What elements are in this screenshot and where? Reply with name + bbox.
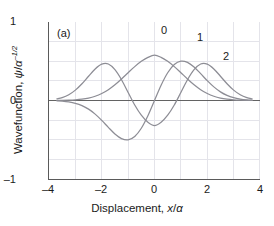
y-axis-title-unit: α <box>12 60 24 67</box>
x-tick-4: 4 <box>248 184 272 195</box>
x-axis-title-prefix: Displacement, <box>91 202 167 214</box>
curve-label-2: 2 <box>223 51 229 62</box>
curve-label-1: 1 <box>197 32 203 43</box>
x-tick-0: 0 <box>142 184 166 195</box>
plot-canvas <box>49 22 260 179</box>
y-axis-title: Wavefunction, ψ/α–1/2 <box>10 15 24 185</box>
y-axis-title-prefix: Wavefunction, <box>12 78 24 154</box>
harmonic-oscillator-wavefunction-figure: (a) 0 1 2 1 0 –1 –4 –2 0 2 4 Displacemen… <box>0 0 274 226</box>
y-axis-title-div: / <box>12 67 24 70</box>
panel-label: (a) <box>57 27 70 39</box>
x-axis-title: Displacement, x/α <box>0 202 274 214</box>
x-tick-2: 2 <box>195 184 219 195</box>
x-tick-minus2: –2 <box>89 184 113 195</box>
curve-label-0: 0 <box>161 25 167 36</box>
y-axis-title-var: ψ <box>12 70 24 78</box>
x-tick-minus4: –4 <box>36 184 60 195</box>
plot-area: (a) 0 1 2 <box>48 22 260 180</box>
x-axis-title-unit: α <box>176 202 183 214</box>
y-axis-title-exponent: –1/2 <box>10 46 19 61</box>
